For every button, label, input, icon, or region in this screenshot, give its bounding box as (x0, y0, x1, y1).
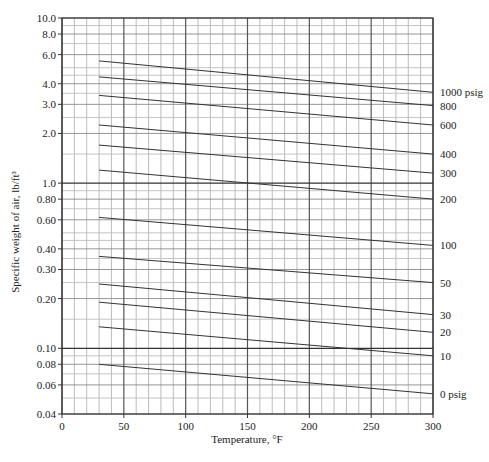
y-tick-label: 0.08 (37, 358, 57, 370)
curve-label: 50 (440, 277, 452, 289)
y-tick-label: 8.0 (42, 28, 56, 40)
curve-line (99, 61, 433, 92)
y-tick-label: 0.10 (37, 342, 57, 354)
curve-line (99, 95, 433, 125)
curve-label: 0 psig (440, 388, 467, 400)
y-axis-title: Specific weight of air, lb/ft³ (9, 170, 21, 292)
x-tick-label: 100 (177, 420, 194, 432)
x-tick-label: 200 (301, 420, 318, 432)
y-tick-label: 10.0 (37, 12, 57, 24)
curve-label: 100 (440, 239, 457, 251)
y-tick-label: 0.60 (37, 214, 57, 226)
x-tick-label: 250 (363, 420, 380, 432)
x-axis-title: Temperature, °F (211, 433, 282, 445)
curve-label: 300 (440, 167, 457, 179)
y-tick-label: 3.0 (42, 98, 56, 110)
y-tick-label: 1.0 (42, 177, 56, 189)
major-gridlines (62, 18, 433, 414)
pressure-curves (99, 61, 433, 394)
y-tick-label: 0.20 (37, 293, 57, 305)
curve-label: 600 (440, 119, 457, 131)
y-tick-label: 2.0 (42, 127, 56, 139)
curve-line (99, 284, 433, 315)
y-tick-label: 4.0 (42, 78, 56, 90)
curve-labels: 1000 psig800600400300200100503020100 psi… (440, 86, 484, 400)
y-tick-label: 0.80 (37, 193, 57, 205)
curve-line (99, 364, 433, 394)
y-tick-label: 0.04 (37, 408, 57, 420)
curve-label: 1000 psig (440, 86, 484, 98)
y-tick-label: 0.40 (37, 243, 57, 255)
curve-label: 800 (440, 100, 457, 112)
y-axis-ticks: 0.040.060.080.100.200.300.400.600.801.02… (37, 12, 62, 420)
curve-line (99, 327, 433, 356)
curve-line (99, 77, 433, 106)
x-axis-ticks: 050100150200250300 (59, 414, 442, 432)
curve-label: 30 (440, 309, 452, 321)
curve-line (99, 170, 433, 199)
specific-weight-chart: 0.040.060.080.100.200.300.400.600.801.02… (0, 0, 489, 462)
y-tick-label: 6.0 (42, 49, 56, 61)
curve-label: 10 (440, 350, 452, 362)
curve-label: 200 (440, 193, 457, 205)
y-tick-label: 0.06 (37, 379, 57, 391)
curve-line (99, 302, 433, 332)
y-tick-label: 0.30 (37, 263, 57, 275)
x-tick-label: 150 (239, 420, 256, 432)
curve-line (99, 217, 433, 245)
x-tick-label: 0 (59, 420, 65, 432)
curve-label: 400 (440, 148, 457, 160)
x-tick-label: 300 (425, 420, 442, 432)
curve-label: 20 (440, 326, 452, 338)
x-tick-label: 50 (118, 420, 130, 432)
